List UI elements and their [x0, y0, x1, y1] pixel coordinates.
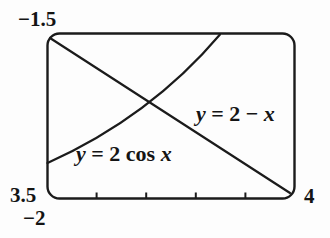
- window-label-xmin: −2: [23, 208, 45, 229]
- cosine-eq-lhs: y: [76, 141, 86, 166]
- window-label-bottom-left: 3.5: [10, 185, 36, 206]
- window-label-top-left: −1.5: [18, 9, 56, 30]
- cosine-eq-mid: = 2 cos: [86, 141, 161, 166]
- cosine-eq-var: x: [161, 141, 172, 166]
- graph-canvas: [0, 0, 330, 238]
- cosine-equation-label: y = 2 cos x: [76, 143, 172, 165]
- line-eq-var: x: [264, 101, 275, 126]
- line-equation-label: y = 2 − x: [196, 103, 275, 125]
- calculator-window-figure: −1.5 3.5 −2 4 y = 2 − x y = 2 cos x: [0, 0, 330, 238]
- window-label-xmax: 4: [304, 186, 315, 207]
- line-eq-lhs: y: [196, 101, 206, 126]
- x-axis-ticks: [97, 193, 246, 199]
- line-eq-mid: = 2 −: [206, 101, 264, 126]
